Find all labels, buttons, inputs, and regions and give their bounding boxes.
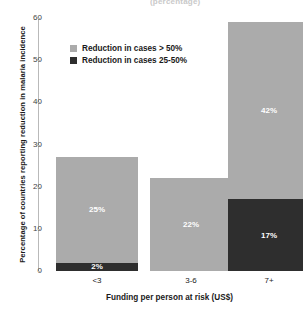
legend-swatch-light <box>70 45 77 52</box>
bar-7+: 17%42% <box>228 22 303 271</box>
malaria-funding-bar-chart: (percentage) Percentage of countries rep… <box>0 0 303 311</box>
bar-segment-light: 22% <box>150 178 232 271</box>
bar-segment-value: 22% <box>183 220 199 229</box>
bar-segment-dark: 2% <box>56 263 138 271</box>
bar-segment-value: 17% <box>261 231 277 240</box>
bar-segment-dark: 17% <box>228 199 303 271</box>
bar-segment-value: 25% <box>89 205 105 214</box>
legend-label-reduction-over-50: Reduction in cases > 50% <box>82 44 182 53</box>
y-tick-mark <box>38 60 41 61</box>
cut-off-chart-title: (percentage) <box>150 0 303 6</box>
bar-3-6: 22% <box>150 178 232 271</box>
bar-segment-light: 25% <box>56 157 138 262</box>
y-tick-mark <box>38 18 41 19</box>
legend: Reduction in cases > 50% Reduction in ca… <box>70 44 187 68</box>
x-category-label: 3-6 <box>150 276 232 285</box>
y-tick-mark <box>38 102 41 103</box>
x-category-label: <3 <box>56 276 138 285</box>
legend-item-reduction-over-50: Reduction in cases > 50% <box>70 44 187 53</box>
legend-swatch-dark <box>70 57 77 64</box>
bar-segment-light: 42% <box>228 22 303 199</box>
y-tick-mark <box>38 271 41 272</box>
legend-label-reduction-25-50: Reduction in cases 25-50% <box>82 56 187 65</box>
bar-segment-value: 42% <box>261 106 277 115</box>
legend-item-reduction-25-50: Reduction in cases 25-50% <box>70 56 187 65</box>
x-axis-title: Funding per person at risk (US$) <box>38 293 301 302</box>
x-category-label: 7+ <box>228 276 303 285</box>
y-tick-mark <box>38 229 41 230</box>
y-tick-mark <box>38 145 41 146</box>
bar-<3: 2%25% <box>56 157 138 271</box>
bar-segment-value: 2% <box>91 262 103 271</box>
y-tick-mark <box>38 187 41 188</box>
